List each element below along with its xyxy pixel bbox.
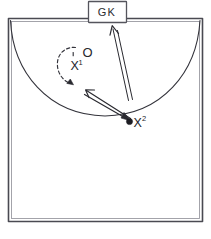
player-x2-superscript: 2	[142, 114, 146, 123]
ball-marker	[126, 118, 132, 124]
play-diagram-canvas: GK X 1 O	[0, 0, 211, 239]
player-x2: X 2	[134, 114, 147, 130]
player-x1: X 1	[71, 58, 83, 74]
crease-arc	[11, 21, 201, 117]
defender-o-label: O	[83, 45, 93, 60]
shot-arrow	[110, 26, 133, 101]
return-arrow	[85, 95, 131, 121]
goalkeeper-label: GK	[98, 6, 117, 18]
play-diagram-svg: GK X 1 O	[0, 0, 211, 239]
defender-o: O	[83, 45, 93, 60]
court-boundary	[9, 19, 203, 222]
cut-path-arrowhead	[67, 79, 74, 85]
goalkeeper-box: GK	[89, 2, 127, 23]
